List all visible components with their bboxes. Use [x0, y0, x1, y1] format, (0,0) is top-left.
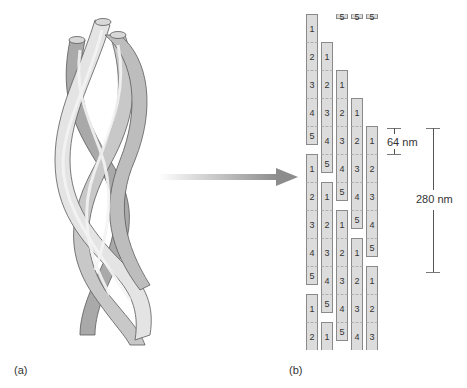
- collagen-segment-5: 5: [306, 266, 318, 285]
- collagen-segment-5: 5: [336, 182, 348, 201]
- collagen-segment-3: 3: [321, 98, 333, 126]
- collagen-segment-1: 1: [366, 266, 378, 294]
- panel-a-label: (a): [14, 364, 27, 376]
- collagen-segment-4: 4: [351, 182, 363, 210]
- collagen-segment-4: 4: [306, 98, 318, 126]
- segment-number: 1: [307, 24, 317, 34]
- collagen-segment-3: 3: [366, 182, 378, 210]
- collagen-segment-2: 2: [321, 70, 333, 98]
- segment-number: 4: [322, 276, 332, 286]
- segment-number: 1: [322, 192, 332, 202]
- segment-number: 1: [367, 276, 377, 286]
- segment-number: 2: [337, 248, 347, 258]
- collagen-segment-3: 3: [306, 210, 318, 238]
- segment-number: 5: [307, 271, 317, 281]
- segment-number: 3: [337, 276, 347, 286]
- collagen-segment-5: 5: [321, 294, 333, 313]
- collagen-segment-1: 1: [351, 238, 363, 266]
- collagen-segment-5: 5: [351, 14, 363, 19]
- segment-number: 1: [307, 164, 317, 174]
- collagen-segment-3: 3: [351, 294, 363, 322]
- collagen-segment-3: 3: [306, 70, 318, 98]
- segment-number: 1: [352, 248, 362, 258]
- segment-number: 1: [337, 80, 347, 90]
- segment-number: 4: [307, 248, 317, 258]
- segment-number: 1: [337, 220, 347, 230]
- collagen-segment-5: 5: [336, 322, 348, 341]
- segment-number: 2: [352, 136, 362, 146]
- collagen-segment-1: 1: [306, 294, 318, 322]
- collagen-segment-4: 4: [351, 322, 363, 350]
- collagen-segment-2: 2: [351, 126, 363, 154]
- segment-number: 1: [322, 52, 332, 62]
- collagen-segment-1: 1: [321, 322, 333, 350]
- collagen-segment-4: 4: [366, 210, 378, 238]
- segment-number: 2: [322, 220, 332, 230]
- collagen-segment-1: 1: [351, 98, 363, 126]
- scale-64nm-label: 64 nm: [387, 136, 418, 148]
- segment-number: 4: [367, 220, 377, 230]
- segment-number: 2: [367, 164, 377, 174]
- collagen-segment-1: 1: [321, 42, 333, 70]
- transition-arrow-icon: [158, 166, 298, 188]
- collagen-segment-4: 4: [306, 238, 318, 266]
- scale-64-arrow-top: [394, 128, 395, 134]
- segment-number: 1: [307, 304, 317, 314]
- scale-280-line-top: [433, 128, 434, 190]
- collagen-segment-4: 4: [336, 294, 348, 322]
- collagen-segment-3: 3: [351, 154, 363, 182]
- collagen-segment-2: 2: [336, 98, 348, 126]
- segment-number: 1: [322, 332, 332, 342]
- collagen-segment-1: 1: [336, 210, 348, 238]
- collagen-segment-4: 4: [321, 266, 333, 294]
- segment-number: 5: [337, 187, 347, 197]
- segment-number: 2: [352, 276, 362, 286]
- collagen-segment-5: 5: [366, 14, 378, 19]
- collagen-segment-5: 5: [336, 14, 348, 19]
- collagen-segment-4: 4: [321, 126, 333, 154]
- collagen-segment-2: 2: [306, 322, 318, 350]
- collagen-segment-2: 2: [306, 42, 318, 70]
- segment-number: 1: [352, 108, 362, 118]
- collagen-segment-5: 5: [321, 154, 333, 173]
- collagen-segment-2: 2: [321, 210, 333, 238]
- collagen-segment-5: 5: [351, 210, 363, 229]
- collagen-segment-1: 1: [336, 70, 348, 98]
- collagen-segment-1: 1: [321, 182, 333, 210]
- collagen-segment-2: 2: [351, 266, 363, 294]
- scale-64-bottom-tick: [387, 154, 401, 155]
- collagen-segment-2: 2: [366, 294, 378, 322]
- segment-number: 4: [322, 136, 332, 146]
- collagen-segment-4: 4: [336, 154, 348, 182]
- collagen-segment-3: 3: [366, 322, 378, 350]
- segment-number: 2: [322, 80, 332, 90]
- segment-number: 2: [367, 304, 377, 314]
- segment-number: 4: [352, 332, 362, 342]
- segment-number: 5: [307, 131, 317, 141]
- collagen-segment-1: 1: [306, 14, 318, 42]
- collagen-segment-5: 5: [366, 238, 378, 257]
- collagen-segment-2: 2: [306, 182, 318, 210]
- segment-number: 2: [307, 52, 317, 62]
- segment-number: 3: [322, 108, 332, 118]
- segment-number: 3: [307, 80, 317, 90]
- segment-number: 4: [337, 304, 347, 314]
- scale-280-line-bottom: [433, 210, 434, 272]
- scale-280-bottom-tick: [426, 272, 440, 273]
- segment-number: 3: [352, 304, 362, 314]
- segment-number: 2: [307, 332, 317, 342]
- segment-number: 3: [307, 220, 317, 230]
- segment-number: 3: [337, 136, 347, 146]
- segment-number: 5: [352, 215, 362, 225]
- segment-number: 3: [367, 192, 377, 202]
- segment-number: 2: [307, 192, 317, 202]
- segment-number: 5: [352, 12, 362, 22]
- segment-number: 5: [337, 12, 347, 22]
- collagen-segment-3: 3: [321, 238, 333, 266]
- segment-number: 3: [352, 164, 362, 174]
- collagen-segment-2: 2: [336, 238, 348, 266]
- segment-number: 2: [337, 108, 347, 118]
- segment-number: 5: [322, 299, 332, 309]
- segment-number: 3: [367, 332, 377, 342]
- segment-number: 3: [322, 248, 332, 258]
